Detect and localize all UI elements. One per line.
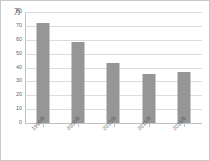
y-axis-tick-label: 20 [16,93,22,99]
x-axis-tick-mark [114,124,115,127]
y-axis-tick-label: 50 [16,51,22,57]
y-axis-tick-label: 30 [16,79,22,85]
y-axis-tick-label: 60 [16,37,22,43]
plot-area: 80706050403020100 [25,12,202,123]
chart-frame: 万 80706050403020100 1990年2000年2010年2015年… [0,0,210,161]
x-axis-tick-mark [43,124,44,127]
bar-1990年[interactable] [36,23,49,123]
y-axis-tick-label: 10 [16,106,22,112]
y-axis-tick-label: 80 [16,9,22,15]
bar-slot [167,12,202,123]
x-axis-tick-mark [149,124,150,127]
bar-slot [131,12,166,123]
y-axis-tick-label: 70 [16,23,22,29]
y-axis-tick-label: 40 [16,65,22,71]
bar-slot [60,12,95,123]
bar-slot [96,12,131,123]
y-axis-tick-label: 0 [19,120,22,126]
x-axis-tick-mark [78,124,79,127]
bar-slot [25,12,60,123]
bar-2000年[interactable] [72,42,85,123]
x-axis-tick-mark [184,124,185,127]
